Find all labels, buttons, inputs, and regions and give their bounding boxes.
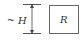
diagram-canvas: ~ H R: [0, 0, 82, 40]
height-label: H: [17, 15, 27, 26]
approx-symbol: ~: [7, 15, 15, 25]
box-label: R: [59, 14, 68, 25]
